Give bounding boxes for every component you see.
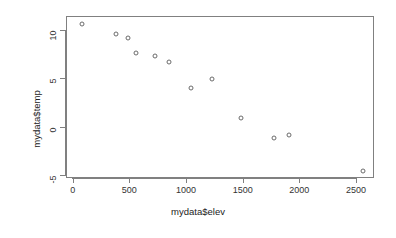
y-tick-mark	[60, 127, 65, 128]
x-axis-title: mydata$elev	[0, 206, 396, 217]
y-tick-label: 10	[49, 31, 58, 41]
x-axis-line	[72, 178, 357, 179]
x-tick-label: 1500	[233, 186, 253, 195]
x-tick-label: 500	[122, 186, 137, 195]
y-axis-title: mydata$temp	[31, 90, 42, 148]
x-tick-mark	[73, 178, 74, 183]
scatter-plot-figure: 10 5 0 -5 0 500 1000 1500 2000 2500 myda…	[0, 0, 396, 238]
x-tick-mark	[186, 178, 187, 183]
x-tick-label: 0	[70, 186, 75, 195]
x-tick-mark	[129, 178, 130, 183]
x-tick-label: 2500	[346, 186, 366, 195]
y-tick-mark	[60, 175, 65, 176]
plot-frame	[66, 16, 374, 178]
y-tick-label: -5	[49, 176, 58, 184]
y-tick-mark	[60, 30, 65, 31]
x-tick-label: 2000	[289, 186, 309, 195]
x-tick-mark	[356, 178, 357, 183]
x-tick-mark	[299, 178, 300, 183]
y-tick-label: 0	[49, 128, 58, 133]
x-tick-label: 1000	[176, 186, 196, 195]
y-axis-line	[65, 30, 66, 176]
y-tick-mark	[60, 78, 65, 79]
y-tick-label: 5	[49, 79, 58, 84]
x-tick-mark	[243, 178, 244, 183]
